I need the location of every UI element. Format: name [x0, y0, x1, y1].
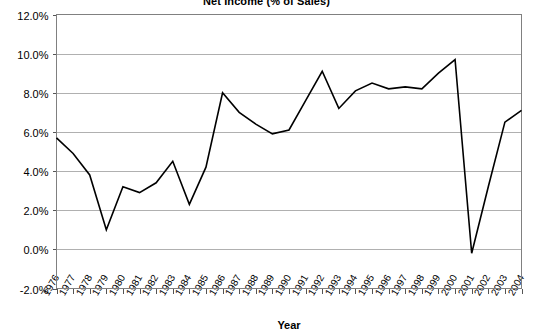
x-axis-title: Year [277, 319, 301, 331]
x-axis-tick-label: 1985 [190, 272, 211, 297]
y-axis-tick-label: 12.0% [17, 10, 48, 22]
plot-frame [57, 15, 522, 289]
x-axis-tick-labels: 1976197719781979198019811982198319841985… [41, 272, 527, 297]
y-axis-tick-label: 8.0% [23, 88, 48, 100]
y-axis-tick-label: 4.0% [23, 166, 48, 178]
x-axis-tick-label: 1987 [223, 272, 244, 297]
y-axis-tick-label: 6.0% [23, 127, 48, 139]
x-axis-tick-label: 1999 [422, 272, 443, 297]
x-axis-tick-label: 1989 [256, 272, 277, 297]
x-axis-tick-label: 2004 [506, 272, 527, 297]
chart-container: Net Income (% of Sales) 12.0%10.0%8.0%6.… [0, 0, 533, 335]
y-axis-tick-labels: 12.0%10.0%8.0%6.0%4.0%2.0%0.0%-2.0% [17, 10, 48, 296]
x-axis-tick-label: 1995 [356, 272, 377, 297]
x-axis-tick-label: 1980 [107, 272, 128, 297]
x-axis-tick-label: 1982 [140, 272, 161, 297]
y-axis-tick-label: 0.0% [23, 244, 48, 256]
y-axis-tick-label: 10.0% [17, 49, 48, 61]
line-chart-plot: 12.0%10.0%8.0%6.0%4.0%2.0%0.0%-2.0% 1976… [0, 0, 533, 335]
x-axis-tick-label: 1984 [173, 272, 194, 297]
x-axis-tick-label: 1997 [389, 272, 410, 297]
x-axis-tick-label: 1990 [273, 272, 294, 297]
x-axis-tick-label: 1992 [306, 272, 327, 297]
x-axis-tick-label: 1979 [90, 272, 111, 297]
y-axis-tick-label: 2.0% [23, 205, 48, 217]
net-income-series-line [57, 60, 522, 254]
x-axis-tick-label: 1977 [57, 272, 78, 297]
x-axis-tick-label: 2000 [439, 272, 460, 297]
x-axis-tick-label: 2003 [489, 272, 510, 297]
x-axis-tick-label: 2002 [472, 272, 493, 297]
x-axis-tick-label: 1994 [339, 272, 360, 297]
gridlines [53, 16, 522, 290]
